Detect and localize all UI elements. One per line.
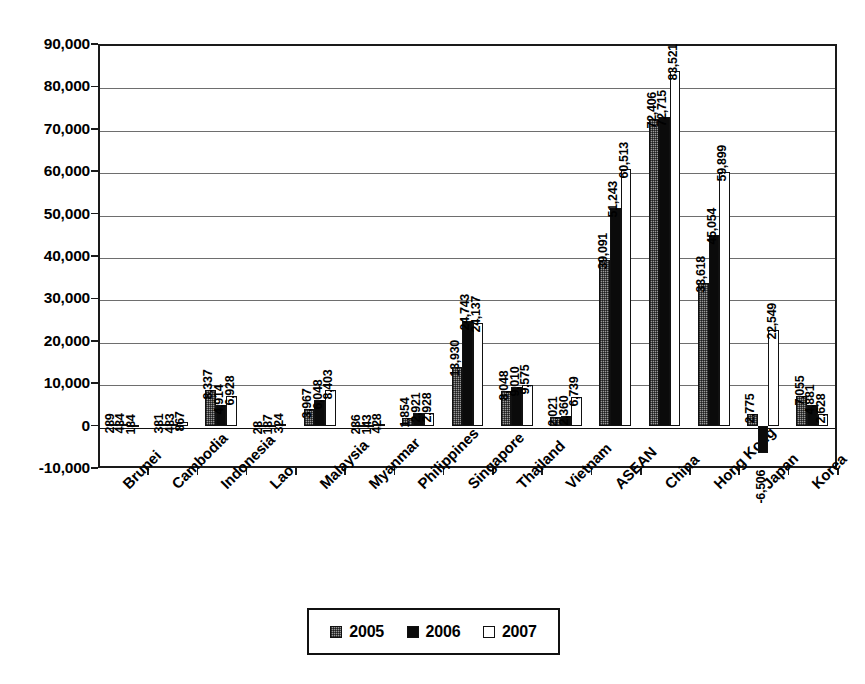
y-axis-tick-label: 0 <box>4 417 90 435</box>
y-axis-tick-mark <box>91 298 98 300</box>
bar-value-label: 51,243 <box>607 181 620 217</box>
legend-label-2006: 2006 <box>426 623 461 641</box>
bar-china-2006 <box>659 117 670 425</box>
bar-china-2005 <box>649 119 660 426</box>
bar-value-label: 13,930 <box>448 340 461 376</box>
bar-singapore-2006 <box>462 321 473 426</box>
bar-value-label: 2,928 <box>420 393 433 423</box>
legend-item-2005: 2005 <box>330 623 384 641</box>
y-axis-tick-mark <box>91 425 98 427</box>
bar-asean-2005 <box>599 260 610 426</box>
bar-japan-2007 <box>768 330 779 426</box>
bar-value-label: 60,513 <box>617 142 630 178</box>
y-axis-tick-label: 80,000 <box>4 77 90 95</box>
bar-value-label: -6,506 <box>754 470 767 504</box>
y-axis-tick-mark <box>91 170 98 172</box>
white-outline-swatch <box>483 626 495 638</box>
bar-japan-2006 <box>758 426 769 454</box>
bar-value-label: 33,618 <box>695 256 708 292</box>
bar-asean-2007 <box>621 169 632 426</box>
bar-singapore-2007 <box>473 323 484 425</box>
gridline <box>100 131 835 132</box>
gridline <box>100 88 835 89</box>
y-axis-tick-label: 20,000 <box>4 332 90 350</box>
bar-value-label: 6,928 <box>223 376 236 406</box>
chart-legend: 2005 2006 2007 <box>307 608 560 655</box>
legend-item-2006: 2006 <box>407 623 461 641</box>
bar-hong-kong-2006 <box>709 235 720 426</box>
y-axis-tick-mark <box>91 43 98 45</box>
y-axis-tick-label: -10,000 <box>4 459 90 477</box>
bar-value-label: 22,549 <box>765 303 778 339</box>
y-axis-tick-mark <box>91 467 98 469</box>
bar-value-label: 184 <box>125 414 138 434</box>
y-axis-tick-mark <box>91 382 98 384</box>
bar-value-label: 72,715 <box>656 90 669 126</box>
bar-china-2007 <box>670 71 681 425</box>
bar-value-label: 8,403 <box>322 370 335 400</box>
y-axis-tick-mark <box>91 86 98 88</box>
bar-value-label: 428 <box>371 413 384 433</box>
bar-value-label: 2,628 <box>814 394 827 424</box>
y-axis-tick-mark <box>91 255 98 257</box>
legend-label-2005: 2005 <box>349 623 384 641</box>
black-solid-swatch <box>407 626 419 638</box>
y-axis-tick-label: 90,000 <box>4 35 90 53</box>
bar-hong-kong-2005 <box>698 283 709 426</box>
y-axis-tick-label: 30,000 <box>4 289 90 307</box>
legend-label-2007: 2007 <box>502 623 537 641</box>
y-axis-tick-label: 50,000 <box>4 205 90 223</box>
bar-value-label: 2,775 <box>744 394 757 424</box>
bar-value-label: 39,091 <box>596 233 609 269</box>
y-axis-tick-label: 40,000 <box>4 247 90 265</box>
bar-value-label: 867 <box>174 411 187 431</box>
legend-item-2007: 2007 <box>483 623 537 641</box>
bar-value-label: 24,137 <box>469 296 482 332</box>
bar-value-label: 9,575 <box>519 365 532 395</box>
bar-value-label: 6,739 <box>568 377 581 407</box>
bar-chart: 90,00080,00070,00060,00050,00040,00030,0… <box>0 0 865 684</box>
y-axis-tick-mark <box>91 340 98 342</box>
y-axis-tick-label: 70,000 <box>4 120 90 138</box>
bar-asean-2006 <box>610 208 621 425</box>
y-axis-tick-label: 10,000 <box>4 374 90 392</box>
y-axis-tick-mark <box>91 213 98 215</box>
bar-value-label: 45,054 <box>705 208 718 244</box>
gray-dotted-swatch <box>330 626 342 638</box>
bar-value-label: 83,521 <box>666 45 679 81</box>
bar-hong-kong-2007 <box>719 172 730 426</box>
y-axis-tick-mark <box>91 128 98 130</box>
bar-value-label: 59,899 <box>716 145 729 181</box>
bar-value-label: 324 <box>272 414 285 434</box>
y-axis-tick-label: 60,000 <box>4 162 90 180</box>
